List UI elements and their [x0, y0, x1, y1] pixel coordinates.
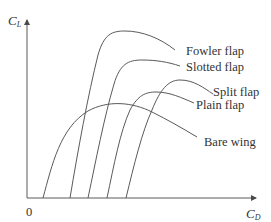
- label-bare-wing: Bare wing: [204, 136, 256, 149]
- curve-plain-flap: [107, 92, 194, 198]
- curve-bare-wing: [43, 104, 197, 198]
- drag-polar-diagram: CL CD 0 Fowler flap Slotted flap Split f…: [0, 0, 271, 222]
- label-split-flap: Split flap: [213, 86, 259, 99]
- label-fowler-flap: Fowler flap: [186, 45, 244, 58]
- label-plain-flap: Plain flap: [196, 99, 244, 112]
- curve-fowler-flap: [70, 31, 175, 198]
- curve-slotted-flap: [88, 60, 180, 198]
- origin-label: 0: [26, 206, 32, 219]
- y-axis-label: CL: [8, 14, 21, 29]
- label-slotted-flap: Slotted flap: [186, 61, 244, 74]
- x-axis-label: CD: [246, 207, 260, 222]
